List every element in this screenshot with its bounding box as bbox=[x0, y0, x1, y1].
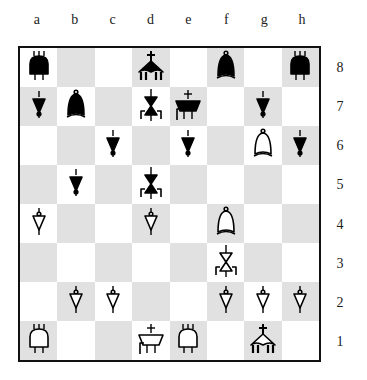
square-g6[interactable] bbox=[244, 126, 281, 165]
black-knight-icon[interactable] bbox=[136, 167, 166, 203]
black-knight-icon[interactable] bbox=[136, 89, 166, 125]
square-g3[interactable] bbox=[244, 243, 281, 282]
square-e1[interactable] bbox=[170, 321, 207, 360]
black-rook-icon[interactable] bbox=[285, 50, 315, 86]
square-e4[interactable] bbox=[170, 204, 207, 243]
square-h8[interactable] bbox=[282, 48, 319, 87]
black-pawn-icon[interactable] bbox=[61, 167, 91, 203]
square-a8[interactable] bbox=[20, 48, 57, 87]
white-pawn-icon[interactable] bbox=[248, 284, 278, 320]
square-b3[interactable] bbox=[57, 243, 94, 282]
white-king-icon[interactable] bbox=[248, 323, 278, 359]
square-f4[interactable] bbox=[207, 204, 244, 243]
square-f6[interactable] bbox=[207, 126, 244, 165]
black-pawn-icon[interactable] bbox=[248, 89, 278, 125]
square-b8[interactable] bbox=[57, 48, 94, 87]
square-f7[interactable] bbox=[207, 87, 244, 126]
file-label-f: f bbox=[207, 11, 245, 29]
square-b2[interactable] bbox=[57, 282, 94, 321]
square-b7[interactable] bbox=[57, 87, 94, 126]
file-label-d: d bbox=[132, 11, 170, 29]
square-a7[interactable] bbox=[20, 87, 57, 126]
square-c7[interactable] bbox=[95, 87, 132, 126]
square-d7[interactable] bbox=[132, 87, 169, 126]
black-king-icon[interactable] bbox=[136, 50, 166, 86]
black-bishop-icon[interactable] bbox=[211, 50, 241, 86]
white-bishop-icon[interactable] bbox=[248, 128, 278, 164]
rank-label-8: 8 bbox=[328, 48, 352, 87]
square-c8[interactable] bbox=[95, 48, 132, 87]
square-d4[interactable] bbox=[132, 204, 169, 243]
white-rook-icon[interactable] bbox=[24, 323, 54, 359]
square-b6[interactable] bbox=[57, 126, 94, 165]
square-d5[interactable] bbox=[132, 165, 169, 204]
file-label-g: g bbox=[245, 11, 283, 29]
rank-label-3: 3 bbox=[328, 244, 352, 283]
square-c3[interactable] bbox=[95, 243, 132, 282]
square-h3[interactable] bbox=[282, 243, 319, 282]
square-h4[interactable] bbox=[282, 204, 319, 243]
white-queen-icon[interactable] bbox=[136, 323, 166, 359]
square-e2[interactable] bbox=[170, 282, 207, 321]
white-pawn-icon[interactable] bbox=[98, 284, 128, 320]
rank-label-1: 1 bbox=[328, 323, 352, 362]
black-pawn-icon[interactable] bbox=[24, 89, 54, 125]
square-b1[interactable] bbox=[57, 321, 94, 360]
square-h5[interactable] bbox=[282, 165, 319, 204]
rank-label-5: 5 bbox=[328, 166, 352, 205]
square-f5[interactable] bbox=[207, 165, 244, 204]
square-a6[interactable] bbox=[20, 126, 57, 165]
square-d6[interactable] bbox=[132, 126, 169, 165]
square-h7[interactable] bbox=[282, 87, 319, 126]
square-a2[interactable] bbox=[20, 282, 57, 321]
square-g7[interactable] bbox=[244, 87, 281, 126]
square-d2[interactable] bbox=[132, 282, 169, 321]
white-knight-icon[interactable] bbox=[211, 245, 241, 281]
square-g5[interactable] bbox=[244, 165, 281, 204]
square-e7[interactable] bbox=[170, 87, 207, 126]
black-pawn-icon[interactable] bbox=[173, 128, 203, 164]
black-rook-icon[interactable] bbox=[24, 50, 54, 86]
square-c5[interactable] bbox=[95, 165, 132, 204]
square-h6[interactable] bbox=[282, 126, 319, 165]
square-e5[interactable] bbox=[170, 165, 207, 204]
square-a3[interactable] bbox=[20, 243, 57, 282]
white-pawn-icon[interactable] bbox=[285, 284, 315, 320]
square-a1[interactable] bbox=[20, 321, 57, 360]
square-c4[interactable] bbox=[95, 204, 132, 243]
square-c2[interactable] bbox=[95, 282, 132, 321]
white-bishop-icon[interactable] bbox=[211, 206, 241, 242]
square-f1[interactable] bbox=[207, 321, 244, 360]
square-f3[interactable] bbox=[207, 243, 244, 282]
square-g8[interactable] bbox=[244, 48, 281, 87]
white-pawn-icon[interactable] bbox=[24, 206, 54, 242]
square-h1[interactable] bbox=[282, 321, 319, 360]
square-a5[interactable] bbox=[20, 165, 57, 204]
square-d8[interactable] bbox=[132, 48, 169, 87]
square-g1[interactable] bbox=[244, 321, 281, 360]
square-b4[interactable] bbox=[57, 204, 94, 243]
square-e8[interactable] bbox=[170, 48, 207, 87]
square-g2[interactable] bbox=[244, 282, 281, 321]
square-g4[interactable] bbox=[244, 204, 281, 243]
square-b5[interactable] bbox=[57, 165, 94, 204]
black-pawn-icon[interactable] bbox=[285, 128, 315, 164]
square-c1[interactable] bbox=[95, 321, 132, 360]
black-bishop-icon[interactable] bbox=[61, 89, 91, 125]
square-f8[interactable] bbox=[207, 48, 244, 87]
chess-board bbox=[18, 46, 321, 362]
square-d3[interactable] bbox=[132, 243, 169, 282]
white-pawn-icon[interactable] bbox=[61, 284, 91, 320]
square-a4[interactable] bbox=[20, 204, 57, 243]
square-d1[interactable] bbox=[132, 321, 169, 360]
square-c6[interactable] bbox=[95, 126, 132, 165]
square-e6[interactable] bbox=[170, 126, 207, 165]
square-e3[interactable] bbox=[170, 243, 207, 282]
square-h2[interactable] bbox=[282, 282, 319, 321]
square-f2[interactable] bbox=[207, 282, 244, 321]
white-pawn-icon[interactable] bbox=[211, 284, 241, 320]
black-queen-icon[interactable] bbox=[173, 89, 203, 125]
white-rook-icon[interactable] bbox=[173, 323, 203, 359]
black-pawn-icon[interactable] bbox=[98, 128, 128, 164]
white-pawn-icon[interactable] bbox=[136, 206, 166, 242]
